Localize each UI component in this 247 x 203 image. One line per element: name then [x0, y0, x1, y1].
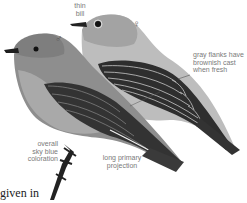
- label-gray-flanks: gray flanks have brownish cast when fres…: [193, 51, 244, 74]
- female-symbol: ♀: [133, 18, 141, 29]
- label-thin-bill: thin bill: [70, 2, 90, 17]
- field-guide-illustration: ♂ ♀ thin bill gray flanks have brownish …: [0, 0, 247, 203]
- label-long-primary-projection: long primary projection: [98, 154, 146, 169]
- male-symbol: ♂: [55, 33, 63, 44]
- label-overall-coloration: overall sky blue coloration: [18, 140, 58, 163]
- bluebird-pair-illustration: [0, 0, 247, 203]
- body-text-fragment: given in: [0, 186, 39, 201]
